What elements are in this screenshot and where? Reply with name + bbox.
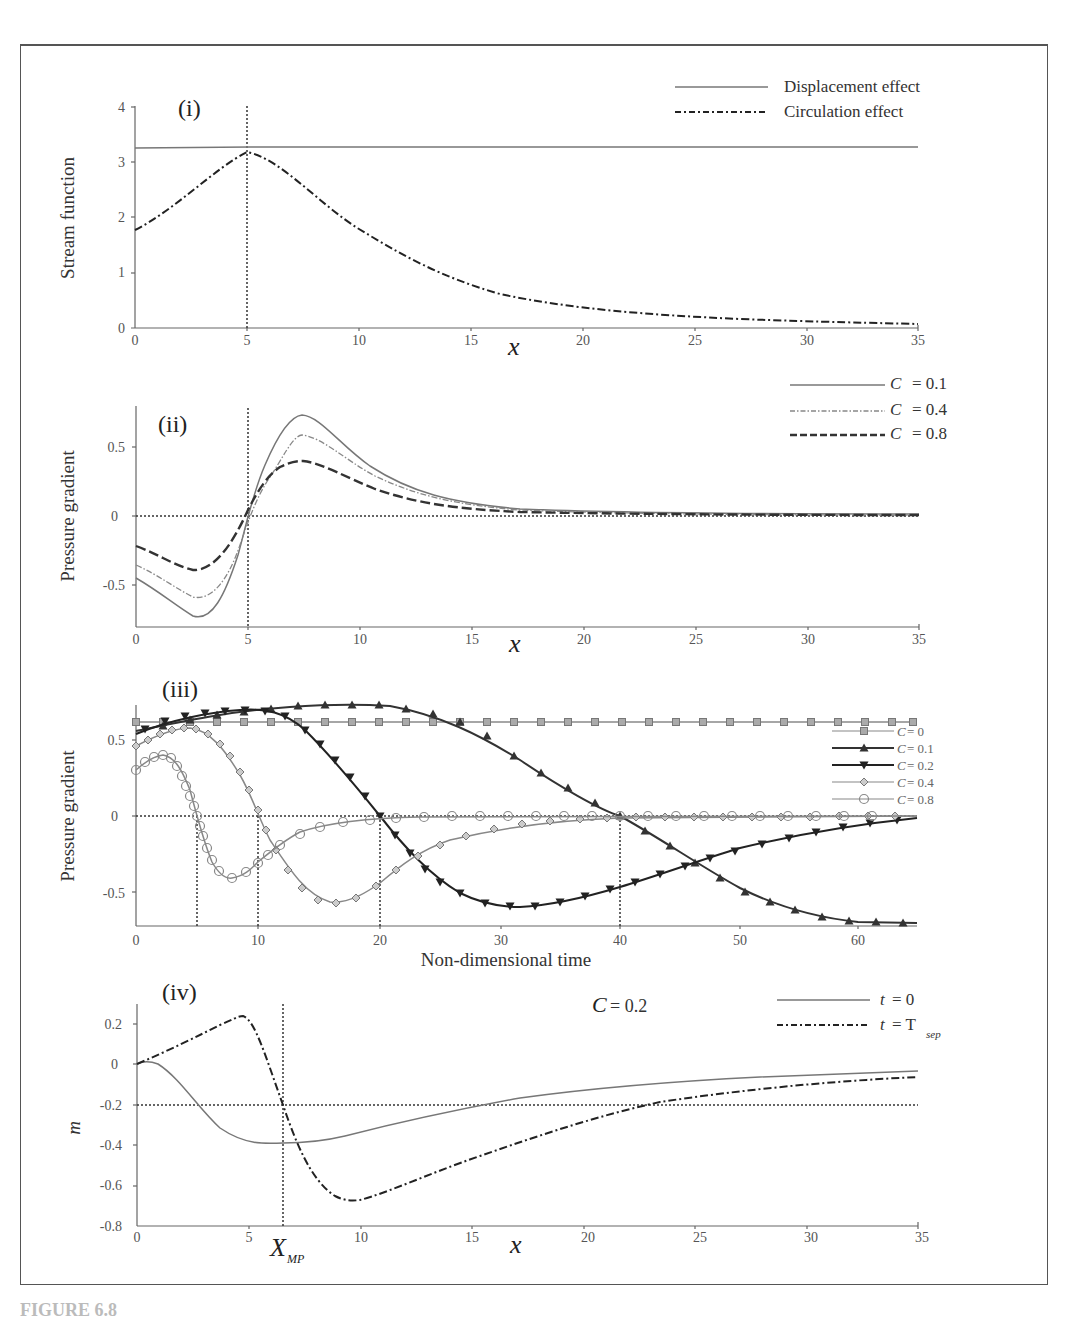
svg-text:5: 5 bbox=[244, 333, 251, 348]
svg-text:-0.6: -0.6 bbox=[100, 1178, 122, 1193]
svg-text:C: C bbox=[897, 792, 906, 807]
svg-text:40: 40 bbox=[613, 933, 627, 948]
svg-text:0: 0 bbox=[133, 933, 140, 948]
svg-text:0: 0 bbox=[132, 333, 139, 348]
panel-iii-ref-lines bbox=[136, 816, 917, 926]
series-t-0 bbox=[137, 1062, 918, 1144]
svg-text:10: 10 bbox=[353, 632, 367, 647]
panel-ii-legend: C = 0.1 C = 0.4 C = 0.8 bbox=[790, 374, 948, 443]
svg-text:-0.4: -0.4 bbox=[100, 1138, 122, 1153]
panel-i-yticks: 0 1 2 3 4 bbox=[118, 100, 125, 336]
panel-i-label: (i) bbox=[178, 95, 201, 121]
svg-text:5: 5 bbox=[246, 1230, 253, 1245]
svg-text:15: 15 bbox=[465, 632, 479, 647]
series-t-tsep bbox=[137, 1016, 918, 1201]
panel-iii-yticks: -0.5 0 0.5 bbox=[103, 733, 125, 901]
svg-text:= 0.4: = 0.4 bbox=[907, 775, 934, 790]
svg-text:30: 30 bbox=[800, 333, 814, 348]
series-c-0 bbox=[133, 719, 918, 726]
svg-text:35: 35 bbox=[911, 333, 925, 348]
svg-text:= T: = T bbox=[892, 1015, 917, 1034]
svg-text:15: 15 bbox=[464, 333, 478, 348]
panel-iii-label: (iii) bbox=[162, 676, 198, 702]
svg-text:0: 0 bbox=[133, 632, 140, 647]
svg-text:0: 0 bbox=[111, 809, 118, 824]
panel-i-xticks: 0 5 10 15 20 25 30 35 bbox=[132, 333, 926, 348]
panel-iv-ylabel: m bbox=[63, 1121, 84, 1135]
svg-text:2: 2 bbox=[118, 210, 125, 225]
svg-text:0: 0 bbox=[134, 1230, 141, 1245]
svg-text:C: C bbox=[897, 741, 906, 756]
panel-iii-xlabel: Non-dimensional time bbox=[421, 949, 591, 970]
figure-canvas: (i) Stream function 0 1 2 3 4 0 5 10 15 … bbox=[0, 0, 1071, 1321]
svg-text:35: 35 bbox=[912, 632, 926, 647]
svg-text:50: 50 bbox=[733, 933, 747, 948]
svg-text:= 0: = 0 bbox=[892, 990, 914, 1009]
panel-iv-legend: t = 0 t = T sep bbox=[777, 990, 941, 1040]
svg-text:10: 10 bbox=[352, 333, 366, 348]
svg-text:C: C bbox=[890, 374, 902, 393]
svg-text:3: 3 bbox=[118, 155, 125, 170]
svg-text:5: 5 bbox=[245, 632, 252, 647]
panel-i-ylabel: Stream function bbox=[57, 157, 78, 279]
svg-text:= 0.1: = 0.1 bbox=[912, 374, 947, 393]
svg-text:= 0.8: = 0.8 bbox=[907, 792, 934, 807]
svg-text:C: C bbox=[897, 775, 906, 790]
svg-text:25: 25 bbox=[688, 333, 702, 348]
panel-i-axes bbox=[131, 106, 918, 331]
svg-text:C: C bbox=[897, 724, 906, 739]
panel-i-xlabel: x bbox=[507, 332, 520, 361]
svg-text:15: 15 bbox=[465, 1230, 479, 1245]
svg-text:C: C bbox=[890, 400, 902, 419]
svg-text:1: 1 bbox=[118, 265, 125, 280]
svg-text:10: 10 bbox=[354, 1230, 368, 1245]
svg-text:MP: MP bbox=[286, 1252, 305, 1266]
series-displacement-effect bbox=[135, 147, 918, 148]
svg-text:t: t bbox=[880, 990, 886, 1009]
svg-text:C: C bbox=[897, 758, 906, 773]
c-annotation: C = 0.2 bbox=[592, 992, 647, 1017]
series-c-0-2 bbox=[136, 707, 917, 911]
panel-i: (i) Stream function 0 1 2 3 4 0 5 10 15 … bbox=[57, 77, 925, 361]
svg-text:= 0: = 0 bbox=[907, 724, 924, 739]
svg-text:-0.5: -0.5 bbox=[103, 886, 125, 901]
svg-text:= 0.4: = 0.4 bbox=[912, 400, 948, 419]
svg-text:-0.5: -0.5 bbox=[103, 578, 125, 593]
svg-text:= 0.8: = 0.8 bbox=[912, 424, 947, 443]
svg-text:25: 25 bbox=[689, 632, 703, 647]
panel-ii-xlabel: x bbox=[508, 629, 521, 658]
svg-text:0: 0 bbox=[111, 509, 118, 524]
svg-text:= 0.2: = 0.2 bbox=[907, 758, 934, 773]
svg-text:25: 25 bbox=[693, 1230, 707, 1245]
svg-text:= 0.2: = 0.2 bbox=[610, 996, 647, 1016]
series-c-0-1 bbox=[136, 701, 917, 927]
svg-text:0.2: 0.2 bbox=[105, 1017, 123, 1032]
svg-text:20: 20 bbox=[576, 333, 590, 348]
panel-ii-yticks: -0.5 0 0.5 bbox=[103, 440, 125, 593]
series-circulation-effect bbox=[135, 152, 918, 324]
panel-iii: (iii) Pressure gradient -0.5 0 0.5 0 10 … bbox=[57, 676, 934, 970]
svg-text:0.5: 0.5 bbox=[108, 733, 126, 748]
panel-ii: (ii) Pressure gradient -0.5 0 0.5 0 5 10… bbox=[57, 374, 948, 658]
panel-ii-label: (ii) bbox=[158, 411, 187, 437]
svg-text:35: 35 bbox=[915, 1230, 929, 1245]
svg-text:sep: sep bbox=[926, 1028, 941, 1040]
panel-iv-label: (iv) bbox=[162, 979, 197, 1005]
panel-i-legend: Displacement effect Circulation effect bbox=[675, 77, 920, 121]
panel-iv-axes bbox=[133, 1004, 918, 1229]
panel-iv: (iv) m 0.2 0 -0.2 -0.4 -0.6 -0.8 0 5 10 … bbox=[63, 979, 941, 1266]
svg-text:-0.8: -0.8 bbox=[100, 1219, 122, 1234]
svg-text:20: 20 bbox=[581, 1230, 595, 1245]
svg-text:20: 20 bbox=[373, 933, 387, 948]
panel-iii-ylabel: Pressure gradient bbox=[57, 750, 78, 882]
svg-text:C: C bbox=[890, 424, 902, 443]
svg-text:0.5: 0.5 bbox=[108, 440, 126, 455]
xmp-label: X MP bbox=[269, 1233, 305, 1266]
panel-iv-xticks: 0 5 10 15 20 25 30 35 bbox=[134, 1230, 930, 1245]
svg-text:4: 4 bbox=[118, 100, 125, 115]
svg-text:Circulation effect: Circulation effect bbox=[784, 102, 903, 121]
svg-text:t: t bbox=[880, 1015, 886, 1034]
figure-caption-fragment: FIGURE 6.8 bbox=[20, 1300, 117, 1321]
panel-iv-xlabel: x bbox=[509, 1230, 522, 1259]
panel-iii-legend: C = 0 C = 0.1 C = 0.2 C = 0.4 C = 0.8 bbox=[830, 724, 934, 807]
